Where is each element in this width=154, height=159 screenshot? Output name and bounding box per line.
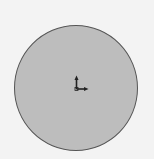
window-title xyxy=(10,0,85,4)
xy-axis-icon xyxy=(70,74,90,94)
